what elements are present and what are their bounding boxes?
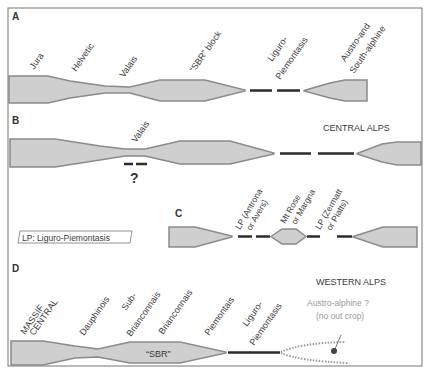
panel-d: D WESTERN ALPS “SBR” Austro-alphine ? (n… [11,263,386,365]
panel-c: C LP (Antrona or Avers) Mt Rose or Margn… [169,187,417,247]
label-sub: Sub- [119,291,138,312]
label-piemontais: Piemontais [202,295,236,338]
panel-letter-d: D [12,263,19,274]
panel-letter-c: C [175,208,182,219]
austro-label-2: (no out crop) [316,311,364,321]
austro-dotted-lower [281,353,348,363]
label-sbr-block: “SBR” block [187,29,223,74]
panel-letter-a: A [12,11,19,22]
region-western-alps: WESTERN ALPS [316,277,386,287]
crust-band-c-left [169,227,232,247]
label-brianconnais: Brianconnais [156,287,194,336]
crust-band-d [11,341,226,365]
label-helvetic: Helvetic [69,41,96,73]
crust-band-b-right [357,142,421,165]
question-mark: ? [130,170,139,186]
label-sbr-d: “SBR” [146,349,171,359]
label-jura: Jura [27,51,45,71]
crust-band-a-right [304,80,367,101]
austro-dot [331,348,337,354]
panel-b: B CENTRAL ALPS ? Valais [10,115,421,186]
legend-lp: LP: Liguro-Piemontasis [22,233,110,243]
crust-band-c-right [353,227,417,247]
crust-band-a-left [9,76,245,103]
label-valais-b: Valais [129,118,151,144]
alps-paleogeography-diagram: A Jura Helvetic Valais “SBR” block Ligur… [0,0,431,379]
legend-box: LP: Liguro-Piemontasis [18,231,132,243]
austro-label-1: Austro-alphine ? [307,298,369,308]
label-dauphinois: Dauphinois [77,294,111,337]
region-central-alps: CENTRAL ALPS [323,123,390,133]
label-valais: Valais [117,53,139,79]
mt-rose-block [271,229,306,244]
panel-letter-b: B [12,115,19,126]
panel-a: A Jura Helvetic Valais “SBR” block Ligur… [9,11,387,103]
